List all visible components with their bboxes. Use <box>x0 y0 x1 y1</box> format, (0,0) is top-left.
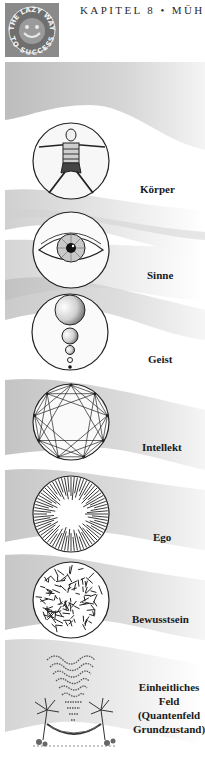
label-geist: Geist <box>148 352 172 366</box>
radiating-lines-icon <box>31 474 111 554</box>
nine-point-star-icon <box>31 382 111 462</box>
label-koerper: Körper <box>140 182 175 196</box>
hammock-palms-waves-icon <box>25 650 125 750</box>
eye-icon <box>31 210 111 290</box>
label-line: Grundzustand) <box>133 722 205 736</box>
label-line: (Quantenfeld <box>133 708 205 722</box>
vitruvian-man-icon <box>31 121 111 201</box>
label-bewusstsein: Bewusstsein <box>132 612 189 626</box>
lazy-way-logo: THE LAZY WAY TO SUCCESS <box>5 3 59 57</box>
label-line: Einheitliches <box>133 680 205 694</box>
scattered-dashes-icon <box>31 560 111 640</box>
label-intellekt: Intellekt <box>142 440 182 454</box>
label-line: Feld <box>133 694 205 708</box>
chapter-header: KAPITEL 8 • MÜHE <box>80 4 205 16</box>
logo-emblem-icon: THE LAZY WAY TO SUCCESS <box>5 3 59 57</box>
label-einheitliches-feld: Einheitliches Feld (Quantenfeld Grundzus… <box>133 680 205 736</box>
wave-bands-background <box>0 0 205 757</box>
label-sinne: Sinne <box>147 268 173 282</box>
label-ego: Ego <box>153 530 171 544</box>
descending-spheres-icon <box>30 292 110 372</box>
